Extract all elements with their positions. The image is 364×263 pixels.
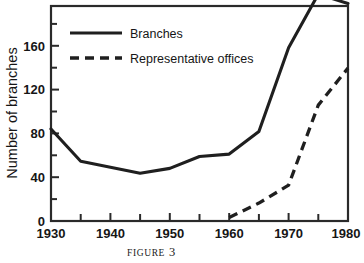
x-tick-label-1950: 1950 [155, 226, 184, 241]
y-tick-label-80: 80 [31, 126, 45, 141]
x-tick-label-1940: 1940 [96, 226, 125, 241]
line-chart: 160 120 80 40 0 1930 1940 1950 1960 1970… [0, 0, 364, 263]
legend-label-representative-offices: Representative offices [130, 52, 253, 66]
y-tick-label-40: 40 [31, 170, 45, 185]
x-axis-tick-labels: 1930 1940 1950 1960 1970 1980 [37, 226, 361, 241]
plot-frame [51, 6, 348, 221]
y-tick-label-120: 120 [23, 82, 45, 97]
legend-label-branches: Branches [130, 27, 183, 41]
y-tick-label-160: 160 [23, 39, 45, 54]
x-tick-label-1930: 1930 [37, 226, 66, 241]
x-tick-label-1980: 1980 [332, 226, 361, 241]
figure-caption: FIGURE 3 [127, 245, 175, 259]
y-axis-tick-labels: 160 120 80 40 0 [23, 39, 45, 229]
x-tick-label-1960: 1960 [215, 226, 244, 241]
x-tick-label-1970: 1970 [274, 226, 303, 241]
y-axis-title: Number of branches [4, 47, 20, 178]
figure-caption-number: 3 [169, 245, 175, 259]
figure-caption-word: FIGURE [127, 248, 165, 258]
figure-container: 160 120 80 40 0 1930 1940 1950 1960 1970… [0, 0, 364, 263]
